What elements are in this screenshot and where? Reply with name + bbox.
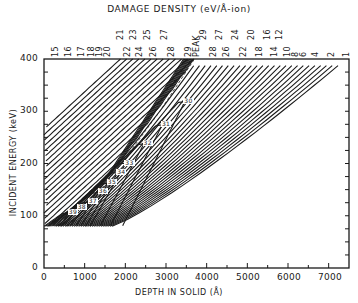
contour-level-label: 39 xyxy=(68,209,78,215)
damage-density-contour-chart: DAMAGE DENSITY (eV/Å-ion) INCIDENT ENERG… xyxy=(0,0,358,303)
contour-plot-area xyxy=(0,0,358,303)
contour-level-label: 31 xyxy=(161,121,171,127)
contour-level-label: 36 xyxy=(98,188,108,194)
contour-level-label: 32 xyxy=(143,140,153,146)
contour-level-label: 33 xyxy=(124,160,134,166)
contour-level-label: 38 xyxy=(77,204,87,210)
contour-level-label: 35 xyxy=(107,179,117,185)
contour-level-label: 37 xyxy=(88,198,98,204)
contour-level-label: 34 xyxy=(116,169,126,175)
contour-level-label: 30 xyxy=(183,98,193,104)
